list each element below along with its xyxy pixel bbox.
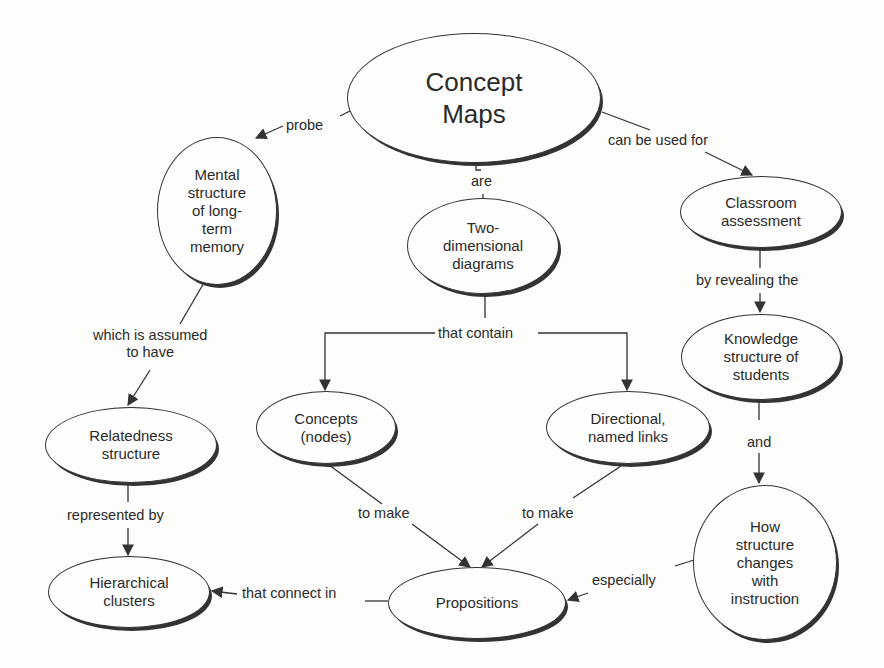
node-mental-structure: Mental structure of long- term memory [157, 137, 277, 285]
link-represented-by: represented by [65, 507, 166, 524]
node-how-structure-changes: How structure changes with instruction [693, 485, 837, 640]
node-two-dimensional: Two- dimensional diagrams [407, 198, 559, 294]
link-to-make-right: to make [520, 505, 576, 522]
node-directional-links: Directional, named links [546, 391, 710, 464]
node-hierarchical-clusters: Hierarchical clusters [48, 556, 210, 628]
node-concepts: Concepts (nodes) [256, 391, 396, 464]
link-and: and [745, 434, 773, 451]
link-by-revealing: by revealing the [694, 272, 800, 289]
link-to-make-left: to make [356, 505, 412, 522]
link-that-connect-in: that connect in [240, 585, 338, 602]
node-relatedness-structure: Relatedness structure [45, 407, 217, 483]
link-that-contain: that contain [436, 325, 515, 342]
link-can-be-used-for: can be used for [606, 132, 710, 149]
link-especially: especially [590, 572, 658, 589]
node-propositions: Propositions [388, 567, 566, 639]
node-concept-maps: Concept Maps [347, 33, 601, 163]
node-knowledge-structure: Knowledge structure of students [681, 314, 841, 400]
node-classroom-assessment: Classroom assessment [680, 176, 842, 248]
link-probe: probe [284, 117, 325, 134]
link-which-is-assumed: which is assumed to have [91, 327, 209, 361]
link-are: are [469, 173, 494, 190]
